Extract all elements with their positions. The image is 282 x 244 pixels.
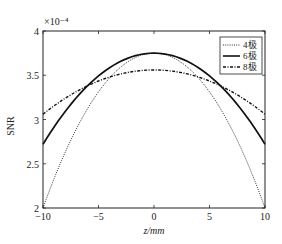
plot-area (43, 53, 265, 208)
snr-chart: −10−5051022.533.54 ×10⁻⁴ SNR z/mm 4极 6极 … (0, 0, 282, 244)
x-axis-label: z/mm (142, 225, 164, 236)
legend-label-6pole: 6极 (243, 50, 257, 61)
series-line-8pole (43, 70, 265, 114)
y-tick-label: 2 (34, 203, 39, 214)
x-tick-label: −5 (93, 211, 104, 222)
y-tick-label: 3.5 (27, 70, 40, 81)
x-tick-label: 5 (207, 211, 212, 222)
x-tick-label: 0 (152, 211, 157, 222)
x-tick-label: 10 (260, 211, 270, 222)
legend-label-4pole: 4极 (243, 39, 257, 50)
y-tick-label: 4 (34, 26, 39, 37)
legend-label-8pole: 8极 (243, 61, 257, 72)
series-line-4pole (43, 53, 265, 208)
legend: 4极 6极 8极 (220, 37, 262, 74)
y-axis-label: SNR (5, 116, 16, 136)
y-tick-label: 3 (34, 115, 39, 126)
y-tick-label: 2.5 (27, 159, 40, 170)
y-multiplier: ×10⁻⁴ (44, 16, 69, 27)
